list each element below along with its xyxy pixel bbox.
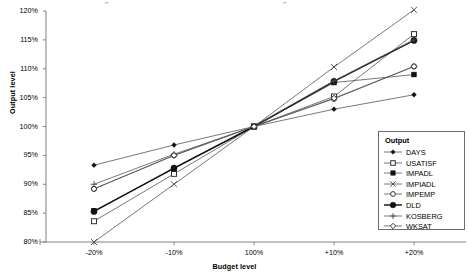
cross-x-icon (383, 179, 403, 189)
legend-item-label: IMPEMP (406, 190, 435, 199)
series-wksat (91, 64, 417, 192)
filled-square-icon (383, 168, 403, 178)
chart-container: c c Output level Budget level 80%85%90%9… (0, 0, 469, 273)
legend-item-days[interactable]: DAYS (383, 147, 465, 157)
legend-item-wksat[interactable]: WKSAT (383, 221, 465, 231)
legend-item-label: USATISF (406, 159, 437, 168)
filled-diamond-icon (383, 147, 403, 157)
legend: Output DAYSUSATISFIMPADLIMPIADLIMPEMPDLD… (378, 131, 465, 230)
open-diamond-icon (383, 221, 403, 231)
series-kosberg (91, 37, 417, 188)
legend-item-label: DAYS (406, 148, 426, 157)
legend-item-dld[interactable]: DLD (383, 200, 465, 210)
legend-item-impadl[interactable]: IMPADL (383, 168, 465, 178)
legend-item-kosberg[interactable]: KOSBERG (383, 211, 465, 221)
legend-item-label: DLD (406, 201, 421, 210)
plus-icon (383, 211, 403, 221)
legend-item-label: KOSBERG (406, 212, 443, 221)
legend-item-label: WKSAT (406, 222, 432, 231)
legend-item-label: IMPADL (406, 169, 433, 178)
legend-title: Output (385, 136, 409, 145)
filled-circle-icon (383, 200, 403, 210)
legend-item-impiadl[interactable]: IMPIADL (383, 179, 465, 189)
open-square-icon (383, 158, 403, 168)
legend-item-impemp[interactable]: IMPEMP (383, 189, 465, 199)
open-circle-icon (383, 189, 403, 199)
legend-item-label: IMPIADL (406, 180, 436, 189)
legend-item-usatisf[interactable]: USATISF (383, 158, 465, 168)
series-impadl (92, 72, 417, 213)
